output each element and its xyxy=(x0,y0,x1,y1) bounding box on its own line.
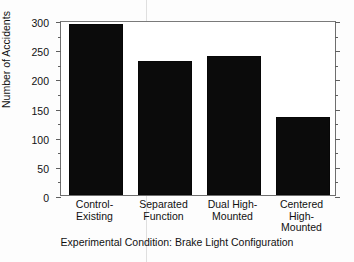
y-tick-minor-right-225 xyxy=(335,66,338,67)
y-tick-label-100: 100 xyxy=(31,134,49,145)
bar-4 xyxy=(276,117,330,195)
x-axis-category-labels: Control-ExistingSeparatedFunctionDual Hi… xyxy=(60,199,336,229)
y-tick-label-250: 250 xyxy=(31,47,49,58)
y-tick-label-300: 300 xyxy=(31,18,49,29)
bar-3 xyxy=(207,56,261,195)
x-category-line: Dual High- xyxy=(198,199,267,211)
x-category-label-4: Centered High-Mounted xyxy=(267,199,336,234)
x-category-label-3: Dual High-Mounted xyxy=(198,199,267,222)
y-tick-right-100 xyxy=(335,139,340,140)
y-tick-right-50 xyxy=(335,168,340,169)
y-tick-minor-right-25 xyxy=(335,182,338,183)
y-axis-title: Number of Accidents xyxy=(0,11,12,108)
x-category-label-1: Control-Existing xyxy=(60,199,129,222)
x-category-label-2: SeparatedFunction xyxy=(129,199,198,222)
x-category-line: Mounted xyxy=(198,211,267,223)
x-category-line: Function xyxy=(129,211,198,223)
x-category-line: Centered High- xyxy=(267,199,336,222)
x-axis-title: Experimental Condition: Brake Light Conf… xyxy=(0,236,354,248)
y-tick-right-150 xyxy=(335,110,340,111)
bar-1 xyxy=(69,24,123,195)
y-tick-0: 0 xyxy=(56,197,61,198)
x-category-line: Existing xyxy=(60,211,129,223)
plot-area: 050100150200250300 xyxy=(60,21,336,196)
y-tick-label-0: 0 xyxy=(43,193,49,204)
bar-series xyxy=(61,22,335,195)
y-tick-minor-right-175 xyxy=(335,95,338,96)
y-tick-right-0 xyxy=(335,197,340,198)
y-tick-minor-right-75 xyxy=(335,153,338,154)
y-tick-label-150: 150 xyxy=(31,105,49,116)
y-tick-right-200 xyxy=(335,80,340,81)
x-category-line: Mounted xyxy=(267,222,336,234)
x-category-line: Control- xyxy=(60,199,129,211)
y-tick-label-50: 50 xyxy=(37,164,49,175)
bar-chart-figure: Number of Accidents 050100150200250300 C… xyxy=(0,0,354,262)
y-tick-right-250 xyxy=(335,51,340,52)
y-tick-label-200: 200 xyxy=(31,76,49,87)
x-category-line: Separated xyxy=(129,199,198,211)
y-tick-minor-right-275 xyxy=(335,37,338,38)
y-tick-right-300 xyxy=(335,22,340,23)
y-tick-minor-right-125 xyxy=(335,124,338,125)
bar-2 xyxy=(138,61,192,195)
